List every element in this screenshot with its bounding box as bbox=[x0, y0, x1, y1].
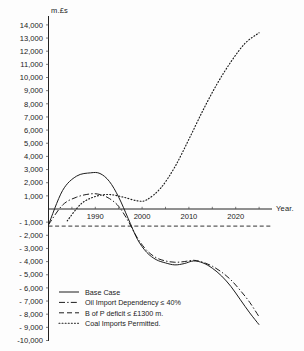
y-tick-label: 9,000 bbox=[24, 86, 43, 95]
legend-label-0: Base Case bbox=[85, 288, 120, 297]
y-tick-label: - 4,000 bbox=[19, 257, 43, 266]
x-tick-label: 2010 bbox=[180, 212, 197, 221]
y-tick-label: 2,000 bbox=[24, 178, 43, 187]
series-lines bbox=[49, 33, 260, 325]
y-tick-label: - 2,000 bbox=[19, 231, 43, 240]
y-tick-label: 6,000 bbox=[24, 126, 43, 135]
y-tick-label: 5,000 bbox=[24, 139, 43, 148]
legend-label-1: Oil Import Dependency ≤ 40% bbox=[85, 298, 181, 307]
legend-label-2: B of P deficit ≤ £1300 m. bbox=[85, 309, 163, 318]
y-tick-label: 7,000 bbox=[24, 113, 43, 122]
y-tick-label: 4,000 bbox=[24, 152, 43, 161]
y-tick-label: 10,000 bbox=[20, 73, 43, 82]
y-tick-label: 14,000 bbox=[20, 21, 43, 30]
y-axis-group: 14,00013,00012,00011,00010,0009,0008,000… bbox=[17, 16, 48, 345]
y-tick-label: - 7,000 bbox=[19, 297, 43, 306]
x-axis-group: 1990200020102020 bbox=[49, 207, 273, 221]
x-axis-title: Year. bbox=[276, 204, 294, 213]
y-tick-label: 8,000 bbox=[24, 100, 43, 109]
x-tick-label: 1990 bbox=[87, 212, 104, 221]
y-tick-label: - 6,000 bbox=[19, 284, 43, 293]
chart-legend: Base CaseOil Import Dependency ≤ 40%B of… bbox=[59, 288, 181, 328]
y-tick-label: 12,000 bbox=[20, 47, 43, 56]
y-tick-label: - 5,000 bbox=[19, 270, 43, 279]
y-tick-label: 11,000 bbox=[20, 60, 43, 69]
y-tick-label: - 8,000 bbox=[19, 310, 43, 319]
chart-container: 14,00013,00012,00011,00010,0009,0008,000… bbox=[0, 0, 304, 351]
legend-label-3: Coal Imports Permitted. bbox=[85, 319, 161, 328]
x-tick-label: 2020 bbox=[227, 212, 244, 221]
y-tick-label: -10,000 bbox=[17, 336, 43, 345]
y-tick-label: 1,000 bbox=[24, 192, 43, 201]
x-tick-label: 2000 bbox=[134, 212, 151, 221]
y-axis-title: m.£s bbox=[51, 6, 68, 15]
y-tick-label: - 1,000 bbox=[19, 218, 43, 227]
line-chart: 14,00013,00012,00011,00010,0009,0008,000… bbox=[0, 0, 304, 351]
y-tick-labels: 14,00013,00012,00011,00010,0009,0008,000… bbox=[17, 21, 43, 346]
y-tick-label: 13,000 bbox=[20, 34, 43, 43]
y-tick-label: - 9,000 bbox=[19, 323, 43, 332]
x-tick-labels: 1990200020102020 bbox=[87, 212, 244, 221]
series-line-3 bbox=[67, 33, 259, 221]
y-tick-label: - 3,000 bbox=[19, 244, 43, 253]
y-tick-label: 3,000 bbox=[24, 165, 43, 174]
